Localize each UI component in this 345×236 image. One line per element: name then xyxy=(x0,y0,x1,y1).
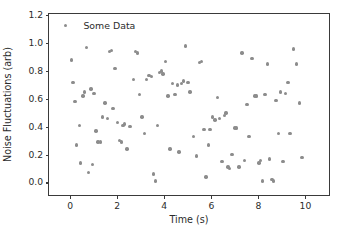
data-point xyxy=(143,132,146,135)
data-point xyxy=(78,124,81,127)
data-point xyxy=(300,156,303,159)
data-point xyxy=(213,118,216,121)
data-point xyxy=(255,94,258,97)
data-point xyxy=(274,99,277,102)
data-point xyxy=(261,179,264,182)
data-point xyxy=(140,115,143,118)
data-point xyxy=(70,58,73,61)
data-point xyxy=(166,94,169,97)
data-point xyxy=(154,179,157,182)
x-axis-label: Time (s) xyxy=(48,214,330,225)
x-tick-mark xyxy=(70,195,71,199)
data-point xyxy=(111,107,114,110)
data-point xyxy=(266,62,269,65)
plot-surface xyxy=(49,14,329,195)
data-point xyxy=(218,117,221,120)
data-point xyxy=(188,90,191,93)
x-axis-label-text: Time (s) xyxy=(169,214,208,225)
x-tick-label: 6 xyxy=(208,201,214,210)
data-point xyxy=(81,94,84,97)
data-point xyxy=(182,79,185,82)
data-point xyxy=(184,44,187,47)
data-point xyxy=(116,121,119,124)
data-point xyxy=(99,140,102,143)
data-point xyxy=(94,129,97,132)
data-point xyxy=(202,128,205,131)
x-tick-mark xyxy=(164,195,165,199)
data-point xyxy=(224,111,227,114)
y-tick-mark xyxy=(46,182,50,183)
data-point xyxy=(150,75,153,78)
data-point xyxy=(120,140,123,143)
scatter-plot-figure: Noise Fluctuations (arb) 0.00.20.40.60.8… xyxy=(0,0,345,236)
data-point xyxy=(89,87,92,90)
data-point xyxy=(228,167,231,170)
data-point xyxy=(216,96,219,99)
data-point xyxy=(286,81,289,84)
data-point xyxy=(103,101,106,104)
data-point xyxy=(101,115,104,118)
data-point xyxy=(87,171,90,174)
y-tick-mark xyxy=(46,15,50,16)
y-tick-mark xyxy=(46,71,50,72)
data-point xyxy=(83,90,86,93)
data-point xyxy=(152,172,155,175)
data-point xyxy=(138,93,141,96)
data-point xyxy=(91,163,94,166)
data-point xyxy=(132,78,135,81)
data-point xyxy=(250,57,253,60)
plot-axes: 0.00.20.40.60.81.01.2 0246810 Some Data xyxy=(48,13,330,196)
data-point xyxy=(164,60,167,63)
data-point xyxy=(177,150,180,153)
data-point xyxy=(284,92,287,95)
data-point xyxy=(292,47,295,50)
legend-marker-icon xyxy=(64,24,67,27)
x-tick-mark xyxy=(305,195,306,199)
data-point xyxy=(237,165,240,168)
x-tick-mark xyxy=(258,195,259,199)
x-tick-label: 2 xyxy=(114,201,120,210)
y-axis-label-text: Noise Fluctuations (arb) xyxy=(2,47,13,162)
data-point xyxy=(106,117,109,120)
data-point xyxy=(156,124,159,127)
y-tick-label: 1.0 xyxy=(28,39,43,48)
data-point xyxy=(79,161,82,164)
data-point xyxy=(110,49,113,52)
data-point xyxy=(240,51,243,54)
x-tick-label: 10 xyxy=(300,201,312,210)
data-point xyxy=(243,159,246,162)
legend-label: Some Data xyxy=(83,20,135,31)
chart-legend: Some Data xyxy=(59,20,135,31)
data-point xyxy=(92,92,95,95)
y-tick-label: 1.2 xyxy=(28,11,43,20)
y-tick-label: 0.4 xyxy=(28,122,43,131)
data-point xyxy=(176,83,179,86)
data-point xyxy=(145,78,148,81)
data-point xyxy=(272,179,275,182)
data-point xyxy=(204,175,207,178)
data-point xyxy=(245,103,248,106)
data-point xyxy=(220,160,223,163)
data-point xyxy=(136,51,139,54)
y-tick-mark xyxy=(46,99,50,100)
data-point xyxy=(259,159,262,162)
data-point xyxy=(71,81,74,84)
data-point xyxy=(268,157,271,160)
x-tick-label: 4 xyxy=(161,201,167,210)
data-point xyxy=(128,125,131,128)
data-point xyxy=(73,100,76,103)
data-point xyxy=(161,72,164,75)
x-tick-mark xyxy=(117,195,118,199)
y-tick-mark xyxy=(46,43,50,44)
data-point xyxy=(123,122,126,125)
data-point xyxy=(230,153,233,156)
data-point xyxy=(192,135,195,138)
data-point xyxy=(247,135,250,138)
data-point xyxy=(195,154,198,157)
data-point xyxy=(235,126,238,129)
y-tick-mark xyxy=(46,127,50,128)
data-point xyxy=(298,101,301,104)
data-point xyxy=(200,60,203,63)
data-point xyxy=(173,93,176,96)
data-point xyxy=(263,93,266,96)
